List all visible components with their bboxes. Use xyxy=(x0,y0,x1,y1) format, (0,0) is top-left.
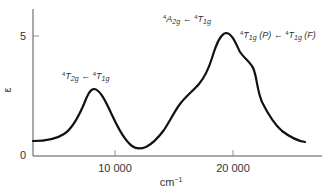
annotation-4T2g: 4T2g ← 4T1g xyxy=(62,71,109,83)
annotation-4A2g: 4A2g ← 4T1g xyxy=(163,14,211,26)
y-tick-label-0: 0 xyxy=(20,149,26,161)
annotation-4T1gP: 4T1g (P) ← 4T1g (F) xyxy=(240,30,316,42)
y-tick-label-5: 5 xyxy=(20,30,26,42)
x-tick-label-10000: 10 000 xyxy=(98,162,132,174)
x-tick-label-20000: 20 000 xyxy=(216,162,250,174)
absorption-chart: 5 0 10 000 20 000 ε cm−1 4T2g ← 4T1g 4A2… xyxy=(0,0,325,188)
x-axis-label: cm−1 xyxy=(160,176,183,188)
y-axis-label: ε xyxy=(1,87,13,92)
spectrum-curve xyxy=(33,33,305,148)
